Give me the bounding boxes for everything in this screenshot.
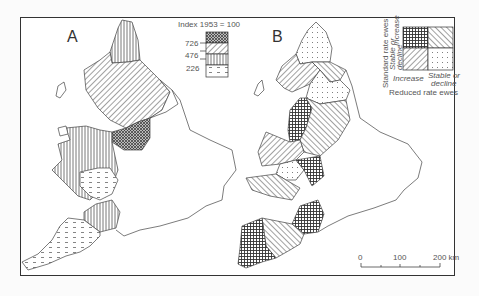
legend-b-x-stable-2: decline xyxy=(431,79,456,88)
legend-a-title: Index 1953 = 100 xyxy=(178,20,240,29)
panel-label-b: B xyxy=(272,28,283,46)
legend-a-tick-226: 226 xyxy=(186,64,199,73)
legend-b-x-title: Reduced rate ewes xyxy=(389,88,458,97)
scale-tick-100: 100 xyxy=(393,253,406,262)
panel-label-a: A xyxy=(67,28,78,46)
scale-tick-0: 0 xyxy=(358,253,362,262)
legend-a-tick-476: 476 xyxy=(185,51,198,60)
map-a xyxy=(22,20,236,270)
legend-b-y-stable-2: decline xyxy=(395,45,404,70)
scale-tick-200: 200 km xyxy=(433,253,459,262)
legend-b-quadrants xyxy=(403,27,453,70)
legend-a-tick-726: 726 xyxy=(185,39,198,48)
legend-a-bars xyxy=(200,32,228,77)
legend-b-x-increase: Increase xyxy=(393,74,424,83)
scale-bar xyxy=(361,263,440,267)
